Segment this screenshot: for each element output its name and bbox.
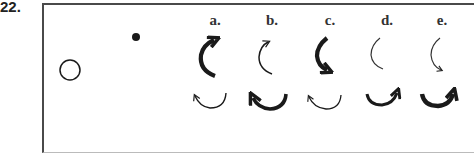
open-circle-icon <box>60 60 80 80</box>
arrow-a-bottom-icon <box>195 93 226 108</box>
arrow-d-bottom-icon <box>367 93 397 105</box>
arc-d-top-icon <box>371 38 383 69</box>
arrow-c-bottom-icon <box>309 95 341 109</box>
arrow-c-top-icon <box>317 38 327 70</box>
arrow-b-bottom-icon <box>253 94 286 109</box>
arrow-b-top-icon <box>259 42 272 74</box>
arrow-e-bottom-icon <box>422 94 453 106</box>
arrow-e-top-icon <box>431 38 441 70</box>
arrow-a-top-icon <box>201 40 215 76</box>
filled-dot-icon <box>132 33 140 41</box>
